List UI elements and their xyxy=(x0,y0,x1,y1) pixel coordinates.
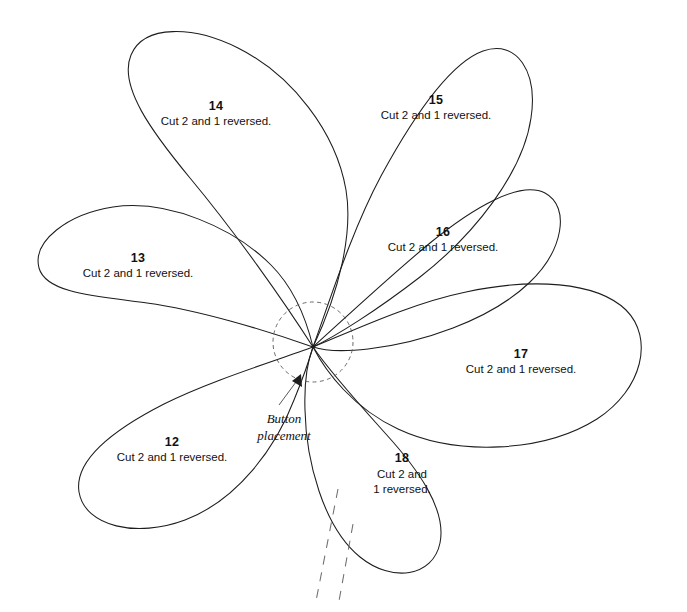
piece-caption-18-line1: Cut 2 and xyxy=(377,468,427,480)
piece-label-18: 18 Cut 2 and 1 reversed. xyxy=(373,451,431,495)
piece-number-12: 12 xyxy=(165,435,179,449)
piece-caption-15: Cut 2 and 1 reversed. xyxy=(381,109,492,121)
piece-caption-13: Cut 2 and 1 reversed. xyxy=(83,267,194,279)
piece-caption-12: Cut 2 and 1 reversed. xyxy=(117,451,228,463)
piece-label-13: 13 Cut 2 and 1 reversed. xyxy=(83,251,194,279)
piece-caption-18-line2: 1 reversed. xyxy=(373,483,431,495)
pattern-diagram: 12 Cut 2 and 1 reversed. 13 Cut 2 and 1 … xyxy=(0,0,687,612)
fold-line-left xyxy=(316,489,338,601)
piece-label-14: 14 Cut 2 and 1 reversed. xyxy=(161,99,272,127)
piece-number-14: 14 xyxy=(209,99,223,113)
piece-caption-17: Cut 2 and 1 reversed. xyxy=(466,363,577,375)
piece-label-17: 17 Cut 2 and 1 reversed. xyxy=(466,347,577,375)
button-placement-line1: Button xyxy=(267,411,302,426)
piece-caption-16: Cut 2 and 1 reversed. xyxy=(388,241,499,253)
button-placement-circle xyxy=(273,302,353,382)
petal-outlines xyxy=(38,32,641,574)
pattern-sheet: 12 Cut 2 and 1 reversed. 13 Cut 2 and 1 … xyxy=(0,0,687,612)
fold-line-right xyxy=(339,524,353,601)
piece-caption-14: Cut 2 and 1 reversed. xyxy=(161,115,272,127)
piece-number-15: 15 xyxy=(429,93,443,107)
petal-shape-14 xyxy=(128,32,348,347)
button-placement-annotation: Button placement xyxy=(256,411,311,443)
piece-number-13: 13 xyxy=(131,251,145,265)
piece-label-16: 16 Cut 2 and 1 reversed. xyxy=(388,225,499,253)
piece-label-12: 12 Cut 2 and 1 reversed. xyxy=(117,435,228,463)
button-placement-line2: placement xyxy=(256,428,311,443)
piece-number-16: 16 xyxy=(436,225,450,239)
piece-number-17: 17 xyxy=(514,347,528,361)
piece-label-15: 15 Cut 2 and 1 reversed. xyxy=(381,93,492,121)
petal-shape-18 xyxy=(305,347,441,573)
piece-number-18: 18 xyxy=(395,451,409,465)
